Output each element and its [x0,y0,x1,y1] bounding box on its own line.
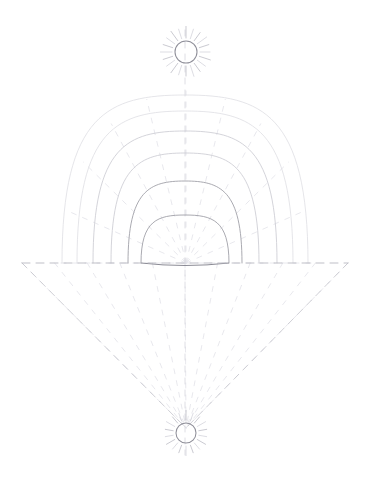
bottom-sun-ray [197,422,205,427]
top-sun-ray [163,45,173,48]
bottom-sun-ray [199,429,207,430]
top-sun-ray [167,60,175,66]
upper-radial-lines-group [59,91,313,263]
top-sun-ray [199,45,209,48]
bottom-sun-ray [179,413,182,421]
cone-radial-line [87,263,186,428]
upper-radial-line [186,124,261,263]
bottom-sun-ray [165,429,173,430]
bottom-sun-ray [173,417,178,423]
top-sun-ray [190,65,194,76]
cone-radial-line [186,263,250,428]
bottom-sun-ray [179,445,182,453]
cone-radial-line [55,263,186,428]
top-sun-ray [171,63,178,72]
cone-right-edge [186,263,348,428]
upper-radial-line [186,162,289,263]
top-sun-ray [194,63,200,71]
bottom-sun-ray [190,445,193,453]
top-sun-ray [179,29,182,39]
upper-radial-line [65,210,186,263]
bottom-sun-ray [166,440,174,445]
upper-radial-line [83,162,186,263]
bottom-sun-icon [165,410,206,455]
cone-radial-line [186,263,283,428]
bottom-sun-ray [190,413,193,421]
cone-radial-line [152,263,186,428]
top-sun-ray [179,65,182,75]
bottom-sun-ray [197,440,205,445]
bottom-sun-ray [165,435,173,436]
bottom-sun-ray [194,443,199,449]
cone-left-edge [22,263,186,428]
top-sun-ray [163,56,173,59]
bottom-sun-ray [199,435,207,436]
upper-radial-line [186,210,307,263]
top-sun-ray [194,33,200,41]
upper-radial-line [111,124,186,263]
bottom-sun-ray [166,422,174,427]
top-sun-ray [197,60,205,66]
cone-radial-line [120,263,186,428]
geometric-figure [0,0,370,485]
top-sun-ray [167,38,175,44]
bottom-sun-circle [176,423,196,443]
diagram-canvas [0,0,370,485]
top-sun-ray [190,29,193,39]
cone-radial-line [186,263,218,428]
bottom-sun-ray [173,443,178,449]
top-sun-ray [171,31,178,40]
top-sun-ray [199,56,210,60]
cone-radial-line [186,263,315,428]
top-sun-ray [197,37,206,44]
top-sun-circle [175,41,197,63]
bottom-sun-ray [194,417,199,423]
